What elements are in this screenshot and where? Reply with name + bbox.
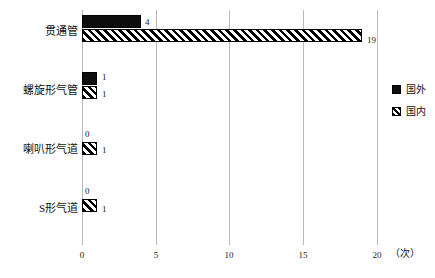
bar-value-foreign-1: 1 — [102, 73, 107, 82]
bar-chart: 4 19 1 1 0 1 0 1 贯通管 螺旋形气管 喇叭形气道 S形气道 0 … — [0, 0, 435, 278]
bar-domestic-3 — [82, 199, 97, 212]
gridline-10 — [229, 10, 230, 245]
category-label-3: S形气道 — [2, 202, 78, 214]
x-tick-label-10: 10 — [225, 250, 234, 260]
bar-value-foreign-0: 4 — [145, 18, 150, 27]
legend-item-domestic: 国内 — [392, 106, 426, 117]
legend-swatch-solid-icon — [392, 85, 401, 94]
category-label-1: 螺旋形气管 — [2, 84, 78, 96]
category-label-0: 贯通管 — [2, 25, 78, 37]
legend-item-foreign: 国外 — [392, 84, 426, 95]
bar-value-domestic-0: 19 — [367, 36, 376, 45]
bar-domestic-2 — [82, 142, 97, 155]
bar-domestic-1 — [82, 86, 97, 99]
bar-value-domestic-3: 1 — [102, 205, 107, 214]
bar-value-foreign-3: 0 — [85, 187, 90, 196]
legend-label-foreign: 国外 — [406, 84, 426, 95]
bar-value-domestic-2: 1 — [102, 146, 107, 155]
x-tick-label-15: 15 — [299, 250, 308, 260]
legend: 国外 国内 — [392, 84, 426, 128]
gridline-15 — [303, 10, 304, 245]
bar-foreign-0 — [82, 15, 141, 28]
x-axis-unit-label: （次） — [390, 248, 420, 260]
legend-swatch-hatch-icon — [392, 107, 401, 116]
x-tick-label-20: 20 — [373, 250, 382, 260]
plot-area: 4 19 1 1 0 1 0 1 — [82, 10, 377, 245]
x-tick-label-5: 5 — [154, 250, 159, 260]
x-tick-label-0: 0 — [80, 250, 85, 260]
gridline-20 — [377, 10, 378, 245]
gridline-5 — [156, 10, 157, 245]
bar-foreign-1 — [82, 72, 97, 85]
bar-value-foreign-2: 0 — [85, 130, 90, 139]
bar-value-domestic-1: 1 — [102, 90, 107, 99]
legend-label-domestic: 国内 — [406, 106, 426, 117]
category-label-2: 喇叭形气道 — [2, 143, 78, 155]
bar-domestic-0 — [82, 29, 362, 42]
